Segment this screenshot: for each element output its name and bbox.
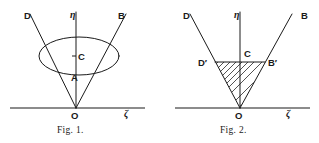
fig2-label-o: O (235, 110, 242, 121)
figure-panel: D η B C A O ζ Fig. 1. (0, 0, 319, 143)
fig2-label-c: C (244, 48, 251, 59)
fig2-hatch-fill (198, 30, 302, 106)
fig1-label-d: D (24, 10, 31, 21)
figure-2-group: D η B C D′ B′ O ζ Fig. 2. (175, 9, 310, 135)
fig2-label-d: D (183, 10, 190, 21)
fig1-label-a: A (71, 72, 78, 83)
fig2-caption: Fig. 2. (220, 125, 247, 135)
fig1-label-o: O (71, 110, 78, 121)
fig1-label-c: C (78, 51, 85, 62)
fig2-label-b-prime: B′ (268, 57, 278, 68)
fig1-label-zeta: ζ (124, 108, 129, 120)
fig1-label-eta: η (70, 9, 76, 20)
fig1-label-b: B (118, 10, 125, 21)
fig1-caption: Fig. 1. (57, 125, 84, 135)
fig1-left-ray-od (30, 14, 76, 108)
fig2-label-eta: η (234, 9, 240, 20)
figures-svg: D η B C A O ζ Fig. 1. (0, 0, 319, 143)
figure-1-group: D η B C A O ζ Fig. 1. (10, 9, 145, 135)
fig2-right-ray-ob (240, 14, 292, 108)
fig2-label-zeta: ζ (286, 108, 291, 120)
fig2-label-d-prime: D′ (198, 57, 208, 68)
fig2-label-b: B (301, 10, 308, 21)
